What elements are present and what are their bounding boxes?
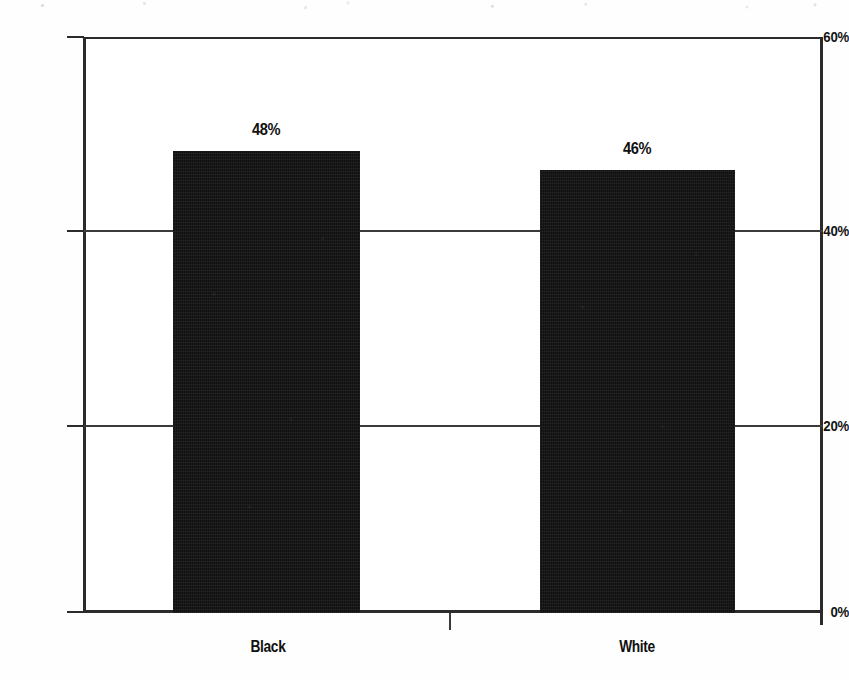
y-tick-mark-60 [67, 36, 84, 38]
y-tick-mark-40 [67, 230, 84, 232]
x-axis-label-black: Black [208, 638, 328, 656]
y-axis-label-40: 40% [791, 222, 849, 239]
scan-noise-artifact [0, 0, 849, 14]
bar-value-label-white: 46% [585, 139, 688, 159]
y-axis-label-0: 0% [791, 603, 849, 620]
y-tick-mark-0 [67, 611, 84, 613]
x-axis-category-divider-tick [449, 613, 451, 630]
bar-white [540, 170, 735, 613]
bar-chart: 60% 40% 20% 0% 48% 46% Black White [0, 0, 849, 680]
bar-value-label-black: 48% [214, 120, 317, 140]
y-tick-mark-20 [67, 425, 84, 427]
x-axis-label-white: White [577, 638, 697, 656]
y-axis-label-60: 60% [791, 28, 849, 45]
bar-black [173, 151, 360, 613]
y-axis-label-20: 20% [791, 417, 849, 434]
